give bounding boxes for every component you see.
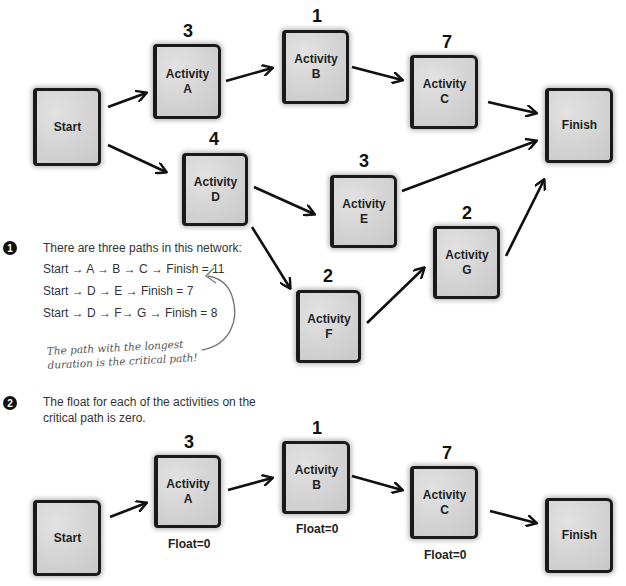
node-activity-b: ActivityB	[282, 30, 349, 104]
arrow-bottom-a-b	[228, 478, 272, 490]
arrow-f-g	[367, 268, 424, 323]
node-start: Start	[33, 88, 101, 166]
duration-d: 4	[204, 129, 224, 150]
arrow-a-b	[226, 68, 272, 81]
duration-e: 3	[354, 151, 374, 172]
bottom-node-a-line1: Activity	[166, 477, 209, 492]
node-e-line1: Activity	[342, 197, 385, 212]
arrow-bottom-start-a	[110, 503, 146, 517]
arrow-d-f	[252, 227, 290, 288]
bottom-node-finish: Finish	[545, 498, 613, 573]
node-b-line2: B	[294, 67, 337, 82]
bottom-node-start-label: Start	[54, 531, 81, 546]
duration-a: 3	[178, 21, 198, 42]
arrow-start-d	[108, 145, 166, 172]
node-g-line1: Activity	[445, 248, 488, 263]
note2-line1: The float for each of the activities on …	[43, 395, 256, 409]
bottom-node-finish-label: Finish	[562, 528, 597, 543]
bullet-1-icon: 1	[3, 241, 17, 255]
bottom-duration-b: 1	[307, 418, 327, 439]
arrow-b-c	[352, 67, 402, 80]
node-activity-d: ActivityD	[182, 153, 248, 226]
node-activity-c: ActivityC	[410, 55, 478, 129]
bottom-node-activity-c: ActivityC	[410, 466, 478, 539]
bottom-node-b-line1: Activity	[295, 463, 338, 478]
bottom-duration-c: 7	[437, 443, 457, 464]
bullet-2-icon: 2	[3, 396, 17, 410]
bottom-node-a-line2: A	[166, 492, 209, 507]
node-e-line2: E	[342, 212, 385, 227]
bottom-node-c-line2: C	[423, 503, 466, 518]
duration-c: 7	[437, 32, 457, 53]
path-3: Start → D → F→ G → Finish = 8	[43, 306, 217, 320]
node-d-line1: Activity	[194, 175, 237, 190]
duration-b: 1	[307, 6, 327, 27]
arrow-c-finish	[488, 102, 536, 113]
path-1: Start → A → B → C → Finish = 11	[43, 262, 225, 276]
duration-g: 2	[457, 203, 477, 224]
node-a-line2: A	[166, 82, 209, 97]
node-f-line1: Activity	[307, 312, 350, 327]
arrow-start-a	[108, 93, 146, 107]
arrow-bottom-c-finish	[490, 511, 536, 523]
node-c-line1: Activity	[423, 77, 466, 92]
node-finish: Finish	[545, 88, 613, 163]
arrow-e-finish	[402, 141, 536, 191]
float-b: Float=0	[296, 522, 338, 536]
node-g-line2: G	[445, 263, 488, 278]
duration-f: 2	[318, 266, 338, 287]
node-d-line2: D	[194, 190, 237, 205]
note1-intro: There are three paths in this network:	[43, 240, 242, 256]
arrow-bottom-b-c	[352, 476, 402, 490]
node-b-line1: Activity	[294, 52, 337, 67]
node-activity-f: ActivityF	[296, 290, 361, 363]
bottom-node-b-line2: B	[295, 478, 338, 493]
node-c-line2: C	[423, 92, 466, 107]
bottom-node-activity-b: ActivityB	[282, 441, 350, 514]
note2-line2: critical path is zero.	[43, 411, 146, 425]
bottom-node-activity-a: ActivityA	[154, 455, 221, 528]
arrow-g-finish	[506, 180, 544, 256]
arrow-d-e	[254, 187, 314, 214]
bottom-duration-a: 3	[179, 432, 199, 453]
node-finish-label: Finish	[562, 118, 597, 133]
note2-text: The float for each of the activities on …	[43, 394, 256, 426]
node-activity-g: ActivityG	[433, 226, 500, 299]
bottom-node-c-line1: Activity	[423, 488, 466, 503]
node-activity-a: ActivityA	[153, 44, 221, 119]
float-a: Float=0	[168, 537, 210, 551]
node-f-line2: F	[307, 327, 350, 342]
node-a-line1: Activity	[166, 67, 209, 82]
node-activity-e: ActivityE	[330, 175, 397, 248]
bottom-node-start: Start	[33, 500, 101, 576]
node-start-label: Start	[54, 120, 81, 135]
float-c: Float=0	[424, 548, 466, 562]
path-2: Start → D → E → Finish = 7	[43, 284, 193, 298]
